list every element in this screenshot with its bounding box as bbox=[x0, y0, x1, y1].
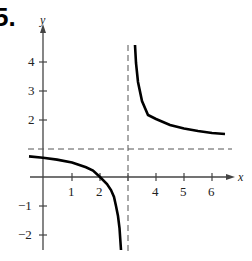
y-tick-label: 4 bbox=[28, 54, 35, 70]
y-tick-label: 2 bbox=[28, 112, 35, 128]
x-tick-label: 2 bbox=[96, 184, 103, 200]
x-axis-label: x bbox=[238, 170, 243, 185]
x-tick-label: 1 bbox=[68, 184, 75, 200]
x-tick-label: 4 bbox=[152, 184, 159, 200]
right-branch-curve bbox=[135, 45, 225, 134]
y-axis-label: y bbox=[40, 13, 45, 28]
x-tick-label: 5 bbox=[180, 184, 187, 200]
graph bbox=[0, 0, 252, 261]
y-tick-label: 3 bbox=[28, 83, 35, 99]
x-tick-label: 6 bbox=[208, 184, 215, 200]
y-tick-label: −2 bbox=[18, 227, 32, 243]
y-tick-label: −1 bbox=[18, 198, 32, 214]
